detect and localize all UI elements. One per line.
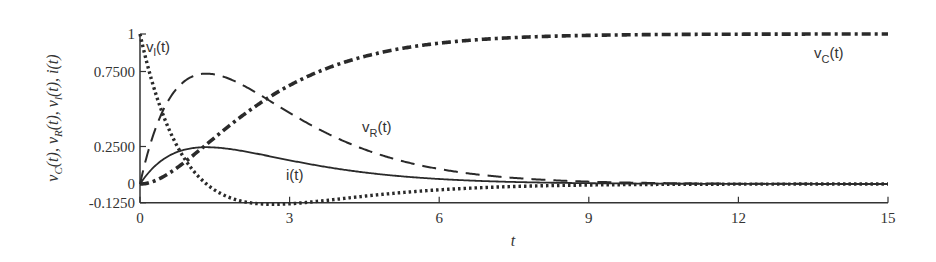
x-tick-label: 15 [881, 210, 896, 226]
x-tick-label: 12 [731, 210, 746, 226]
x-axis-title: t [511, 232, 516, 249]
svg-text:vC(t), vR(t), vl(t), i(t): vC(t), vR(t), vl(t), i(t) [44, 54, 64, 181]
x-tick-label: 9 [585, 210, 593, 226]
y-tick-label: 0.2500 [94, 139, 135, 155]
y-axis-title: vC(t), vR(t), vl(t), i(t) [44, 54, 64, 181]
y-tick-label: 0.7500 [94, 64, 135, 80]
label-vc: vC(t) [814, 44, 844, 65]
x-tick-label: 3 [286, 210, 294, 226]
y-tick-label: 1 [128, 26, 136, 42]
rlc-response-chart: 03691215-0.125000.25000.75001 vC(t), vR(… [0, 0, 936, 262]
label-vl: vl(t) [146, 38, 170, 58]
x-tick-label: 6 [435, 210, 443, 226]
label-vr: vR(t) [362, 118, 392, 139]
curves [140, 34, 888, 204]
y-tick-label: -0.1250 [89, 195, 135, 211]
y-tick-label: 0 [128, 176, 136, 192]
axes: 03691215-0.125000.25000.75001 [89, 26, 896, 226]
curve-vrt [140, 74, 888, 184]
curve-vct [140, 34, 888, 184]
label-i: i(t) [286, 166, 304, 183]
x-tick-label: 0 [136, 210, 144, 226]
